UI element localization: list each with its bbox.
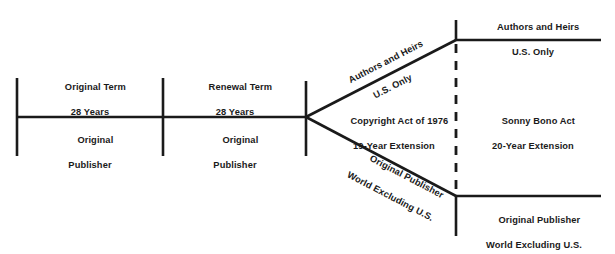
label-renewal-term-line1: Renewal Term <box>209 82 273 92</box>
label-original-publisher-first-line2: Publisher <box>30 159 150 171</box>
label-terminal-upper-line2: U.S. Only <box>463 46 603 58</box>
label-terminal-lower-original-publisher: Original Publisher World Excluding U.S. <box>461 202 607 254</box>
label-original-publisher-second-line2: Publisher <box>175 159 295 171</box>
label-original-term-line2: 28 Years <box>30 106 150 118</box>
label-sonny-bono-act-line2: 20-Year Extension <box>468 140 598 152</box>
label-original-publisher-first-line1: Original <box>77 135 113 145</box>
label-terminal-upper-authors-heirs: Authors and Heirs U.S. Only <box>463 9 603 83</box>
label-copyright-act-1976-line1: Copyright Act of 1976 <box>350 116 448 126</box>
label-original-publisher-first: Original Publisher <box>30 122 150 196</box>
label-sonny-bono-act-line1: Sonny Bono Act <box>502 116 575 126</box>
label-sonny-bono-act: Sonny Bono Act 20-Year Extension <box>468 103 598 177</box>
label-terminal-lower-line1: Original Publisher <box>498 215 580 225</box>
label-original-publisher-second: Original Publisher <box>175 122 295 196</box>
label-renewal-term-line2: 28 Years <box>175 106 295 118</box>
label-copyright-act-1976-line2: 19-Year Extension <box>334 140 454 152</box>
label-copyright-act-1976: Copyright Act of 1976 19-Year Extension <box>334 103 454 177</box>
label-terminal-lower-line2: World Excluding U.S. <box>461 239 607 251</box>
label-original-term-line1: Original Term <box>65 82 126 92</box>
label-terminal-upper-line1: Authors and Heirs <box>497 22 579 32</box>
label-original-publisher-second-line1: Original <box>222 135 258 145</box>
